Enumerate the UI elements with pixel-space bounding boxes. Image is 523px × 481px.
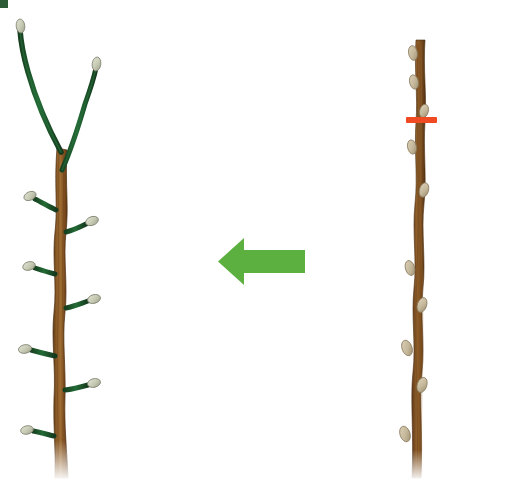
dormant-branch-bottom-fade xyxy=(404,450,432,481)
diagram-svg xyxy=(0,0,523,481)
regrown-branch-trunk xyxy=(53,148,68,478)
lateral-shoot-2 xyxy=(66,224,86,232)
pruning-cut-mark xyxy=(406,117,437,123)
lateral-shoot-5 xyxy=(31,350,55,356)
corner-pixel-artifact xyxy=(0,0,8,8)
lateral-shoot-6 xyxy=(65,385,88,390)
lateral-shoot-3 xyxy=(35,268,55,274)
leader-bud-right xyxy=(91,56,101,71)
regrown-branch-bottom-fade xyxy=(46,440,76,481)
lateral-shoot-7 xyxy=(33,431,54,436)
lateral-shoot-4 xyxy=(66,301,88,308)
dormant-branch-group xyxy=(398,40,437,481)
dormant-bud-8 xyxy=(400,339,415,357)
leader-shoot-left xyxy=(20,30,61,152)
lateral-bud-5 xyxy=(18,344,32,355)
leader-bud-left xyxy=(15,19,25,34)
leader-shoot-left-inner xyxy=(20,30,61,152)
leader-shoot-right xyxy=(62,68,96,170)
transformation-arrow xyxy=(218,238,305,285)
lateral-bud-7 xyxy=(20,425,34,436)
diagram-canvas xyxy=(0,0,523,481)
regrown-branch-group xyxy=(15,19,101,481)
arrow-shape xyxy=(218,238,305,285)
dormant-bud-10 xyxy=(398,425,412,443)
lateral-shoot-1 xyxy=(35,199,56,210)
